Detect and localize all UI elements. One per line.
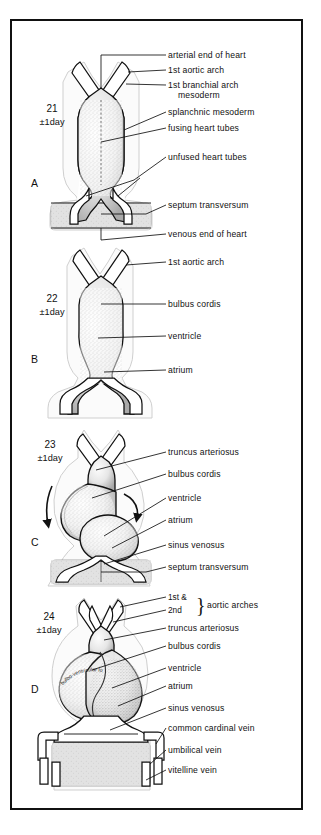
panel-a: 21 ±1day A arterial end of heart 1st aor… [31,50,254,240]
panel-d-atrium [54,716,148,742]
panel-d-septum-texture [52,742,150,786]
panel-d-leader-1st-arch [120,597,166,607]
panel-a-day-number: 21 [46,103,58,114]
label-splanchnic-mesoderm: splanchnic mesoderm [168,107,254,117]
panel-b-letter: B [31,353,38,365]
label-bulbus-cordis-b: bulbus cordis [168,299,221,309]
panel-b: 22 ±1day B 1st aortic arch bulbus cordis… [31,248,224,418]
panel-c-letter: C [31,536,39,548]
label-bulbus-cordis-d: bulbus cordis [168,641,221,651]
panel-c-day-number: 23 [44,439,56,450]
label-1st-aortic-arch-a: 1st aortic arch [168,65,224,75]
label-aortic-arch-1st: 1st & [168,592,187,602]
panel-d-letter: D [31,683,39,695]
label-bulbus-cordis-c: bulbus cordis [168,469,221,479]
label-arterial-end-of-heart: arterial end of heart [168,50,246,60]
label-fusing-heart-tubes: fusing heart tubes [168,123,239,133]
panel-d-day-range: ±1day [37,625,62,635]
label-truncus-arteriosus-c: truncus arteriosus [168,447,239,457]
panel-a-day-range: ±1day [40,117,65,127]
label-ventricle-d: ventricle [168,663,201,673]
label-aortic-arch-2nd: 2nd [168,605,182,615]
panel-d-day-number: 24 [43,611,55,622]
panel-d-umbilical-vein-right [154,758,162,784]
label-vitelline-vein: vitelline vein [168,765,217,775]
label-truncus-arteriosus-d: truncus arteriosus [168,623,239,633]
panel-d-vitelline-vein-left [52,762,60,786]
label-ventricle-c: ventricle [168,493,201,503]
aortic-arches-brace: } [196,594,206,616]
label-sinus-venosus-d: sinus venosus [168,703,224,713]
panel-b-day-range: ±1day [40,307,65,317]
panel-c: 23 ±1day C truncus arteriosus bulbus cor… [31,430,249,586]
label-septum-transversum-c: septum transversum [168,562,249,572]
label-sinus-venosus-c: sinus venosus [168,540,224,550]
label-mesoderm: mesoderm [178,90,220,100]
panel-a-leader-1st-aortic-arch [128,70,166,72]
label-1st-branchial-arch: 1st branchial arch [168,80,239,90]
label-atrium-b: atrium [168,365,193,375]
panel-b-texture [80,288,122,384]
panel-d-vitelline-vein-right [142,762,150,786]
label-atrium-d: atrium [168,681,193,691]
panel-a-septum-texture [51,203,151,228]
label-aortic-arches-group: aortic arches [207,600,258,610]
panel-b-day-number: 22 [46,293,58,304]
panel-c-loop-arrow-left [47,486,52,524]
label-unfused-heart-tubes: unfused heart tubes [168,152,247,162]
label-atrium-c: atrium [168,515,193,525]
figure-illustration: 21 ±1day A arterial end of heart 1st aor… [0,0,321,835]
label-common-cardinal-vein: common cardinal vein [168,723,255,733]
label-umbilical-vein: umbilical vein [168,745,222,755]
panel-c-day-range: ±1day [38,453,63,463]
label-venous-end-of-heart: venous end of heart [168,229,247,239]
label-1st-aortic-arch-b: 1st aortic arch [168,257,224,267]
panel-d-umbilical-vein-left [40,758,48,784]
panel-a-letter: A [31,177,38,189]
label-ventricle-b: ventricle [168,331,201,341]
label-septum-transversum-a: septum transversum [168,200,249,210]
figure-root: 21 ±1day A arterial end of heart 1st aor… [0,0,321,835]
